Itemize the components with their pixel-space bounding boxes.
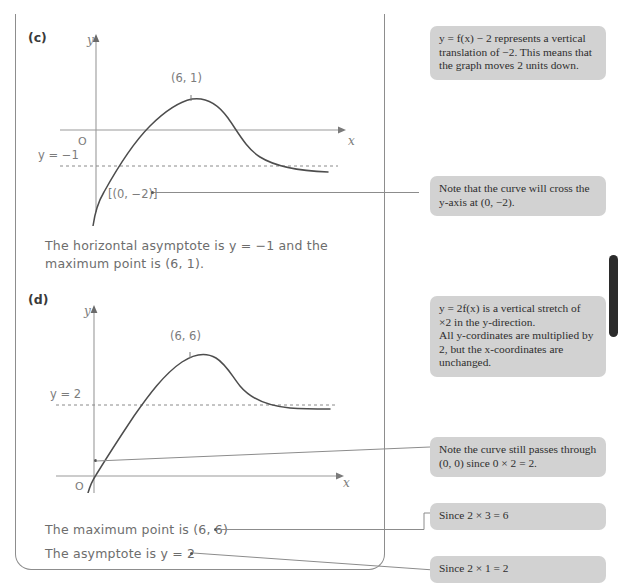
graph-c-intercept-label: [(0, −2)] <box>108 187 158 201</box>
graph-d-max-point-label: (6, 6) <box>170 329 201 343</box>
callout-line: Note the curve still passes through <box>439 443 598 457</box>
callout-line: All y-cordinates are multiplied by <box>439 329 598 343</box>
callout-line: unchanged. <box>439 356 598 370</box>
graph-d-origin-label: O <box>75 480 84 493</box>
callout-line: translation of −2. This means that <box>439 46 598 60</box>
callout-line: the graph moves 2 units down. <box>439 59 598 73</box>
callout-line: Since 2 × 1 = 2 <box>439 562 598 576</box>
leader-line-origin <box>94 440 444 480</box>
graph-c-asymptote-label: y = −1 <box>38 148 79 162</box>
callout-line: Since 2 × 3 = 6 <box>439 509 598 523</box>
graph-c-max-point-label: (6, 1) <box>171 71 202 85</box>
page-edge-tab <box>609 255 618 337</box>
leader-line-asymptote <box>192 540 437 580</box>
graph-c-y-axis-label: y <box>86 33 94 47</box>
callout-line: ×2 in the y-direction. <box>439 316 598 330</box>
graph-d-asymptote-label: y = 2 <box>50 387 81 401</box>
conclusion-c-line2: maximum point is (6, 1). <box>45 256 204 271</box>
callout-vertical-stretch: y = 2f(x) is a vertical stretch of ×2 in… <box>430 296 606 377</box>
callout-line: y = f(x) − 2 represents a vertical <box>439 32 598 46</box>
callout-since-2x1: Since 2 × 1 = 2 <box>430 556 606 583</box>
graph-c: y x O y = −1 (6, 1) [(0, −2)] <box>38 26 368 226</box>
worksheet-page: (c) y x O y = −1 (6, 1) [(0, −2)] The ho… <box>0 0 620 587</box>
graph-c-x-axis-label: x <box>348 134 355 148</box>
callout-y-intercept-note: Note that the curve will cross the y-axi… <box>430 176 606 216</box>
conclusion-d-line2: The asymptote is y = 2 <box>45 546 195 561</box>
callout-line: y-axis at (0, −2). <box>439 196 598 210</box>
callout-line: 2, but the x-coordinates are <box>439 343 598 357</box>
callout-vertical-translation: y = f(x) − 2 represents a vertical trans… <box>430 26 606 80</box>
graph-d-y-axis-label: y <box>83 304 91 318</box>
leader-line-y-intercept <box>154 192 419 193</box>
callout-line: y = 2f(x) is a vertical stretch of <box>439 302 598 316</box>
graph-c-origin-label: O <box>78 135 87 148</box>
conclusion-d-line1: The maximum point is (6, 6) <box>45 522 228 537</box>
conclusion-c-line1: The horizontal asymptote is y = −1 and t… <box>45 238 328 253</box>
callout-line: (0, 0) since 0 × 2 = 2. <box>439 457 598 471</box>
callout-line: Note that the curve will cross the <box>439 182 598 196</box>
callout-passes-through-origin: Note the curve still passes through (0, … <box>430 437 606 477</box>
callout-since-2x3: Since 2 × 3 = 6 <box>430 503 606 530</box>
